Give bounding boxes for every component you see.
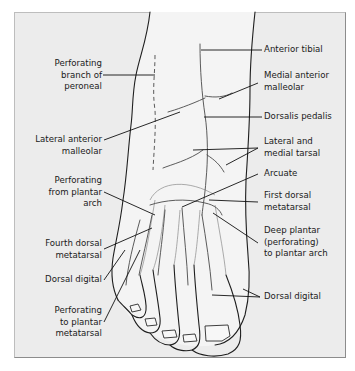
label-lateral-anterior-malleolar: Lateral anterior malleolar bbox=[8, 134, 102, 157]
label-dorsal-digital-right: Dorsal digital bbox=[264, 291, 321, 303]
label-medial-anterior-malleolar: Medial anterior malleolar bbox=[264, 70, 329, 93]
label-first-dorsal-metatarsal: First dorsal metatarsal bbox=[264, 190, 311, 213]
label-anterior-tibial: Anterior tibial bbox=[264, 44, 323, 56]
label-dorsal-digital-left: Dorsal digital bbox=[20, 274, 102, 286]
toenail-2 bbox=[183, 334, 197, 342]
toenail-3 bbox=[162, 330, 177, 338]
toenail-4 bbox=[145, 318, 157, 326]
toenail-1 bbox=[205, 325, 230, 341]
label-perforating-to-plantar-metatarsal: Perforating to plantar metatarsal bbox=[20, 305, 102, 340]
label-deep-plantar: Deep plantar (perforating) to plantar ar… bbox=[264, 225, 328, 260]
label-perforating-from-plantar-arch: Perforating from plantar arch bbox=[20, 175, 102, 210]
label-fourth-dorsal-metatarsal: Fourth dorsal metatarsal bbox=[20, 238, 102, 261]
label-dorsalis-pedalis: Dorsalis pedalis bbox=[264, 111, 332, 123]
label-perforating-branch-of-peroneal: Perforating branch of peroneal bbox=[20, 58, 102, 93]
label-arcuate: Arcuate bbox=[264, 168, 297, 180]
label-lateral-and-medial-tarsal: Lateral and medial tarsal bbox=[264, 136, 320, 159]
